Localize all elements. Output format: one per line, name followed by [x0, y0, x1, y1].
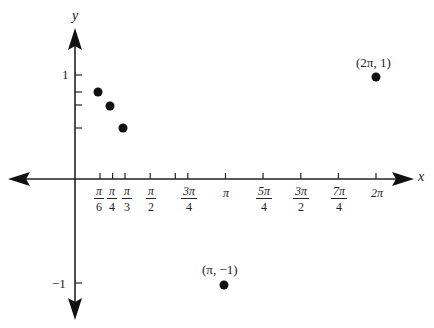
x-tick-pi-3: π3	[122, 185, 132, 213]
data-points	[94, 73, 381, 290]
x-tick-3pi-2: 3π2	[293, 185, 309, 213]
point-2pi	[372, 73, 381, 82]
x-tick-pi: π	[223, 186, 229, 201]
point-pi-3	[119, 124, 128, 133]
x-tick-pi-2: π2	[146, 185, 156, 213]
annotation-pi-neg1: (π, −1)	[202, 263, 238, 276]
x-tick-5pi-4: 5π4	[256, 185, 272, 213]
x-tick-pi-4: π4	[107, 185, 117, 213]
x-tick-3pi-4: 3π4	[181, 185, 197, 213]
point-pi	[220, 281, 229, 290]
annotation-2pi-1: (2π, 1)	[356, 56, 391, 69]
x-tick-7pi-4: 7π4	[331, 185, 347, 213]
point-pi-6	[94, 88, 103, 97]
x-tick-2pi: 2π	[371, 186, 383, 201]
x-tick-pi-6: π6	[94, 185, 104, 213]
point-pi-4	[106, 102, 115, 111]
x-ticks	[100, 173, 376, 179]
x-axis-label: x	[418, 169, 424, 185]
y-axis-label: y	[72, 8, 78, 24]
y-tick-1: 1	[62, 68, 69, 81]
y-tick-neg1: −1	[52, 277, 66, 290]
